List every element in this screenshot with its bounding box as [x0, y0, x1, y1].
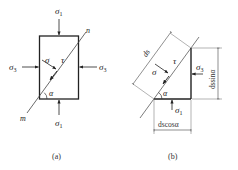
inclined-plane-line: [140, 37, 199, 118]
sigma3-left-label: σ3: [9, 62, 16, 73]
sigma1-bottom-label: σ1: [55, 118, 62, 129]
sigma1-label: σ1: [175, 105, 182, 116]
sigma-normal-arrow: [155, 64, 168, 73]
alpha-arc: [159, 93, 162, 100]
stress-element-rect: [40, 36, 79, 99]
sigma3-label: σ3: [196, 62, 203, 73]
alpha-arc: [44, 93, 47, 99]
vertical-dimension-label: dssinα: [208, 70, 217, 89]
tau-label: τ: [61, 55, 65, 65]
ds-extension-top: [170, 33, 191, 48]
tau-arrow: [50, 71, 57, 80]
sigma3-right-label: σ3: [99, 62, 106, 73]
horizontal-dimension-label: dscosα: [158, 120, 179, 129]
alpha-label: α: [163, 89, 168, 98]
sigma-normal-label: σ: [45, 55, 50, 65]
caption-b: (b): [168, 152, 178, 161]
ds-extension-bottom: [133, 84, 154, 99]
sigma1-top-label: σ1: [55, 6, 62, 17]
caption-a: (a): [52, 152, 61, 161]
tau-label: τ: [173, 56, 177, 66]
panel-a: σ1 σ1 σ3 σ3 σ τ α n m (a): [9, 6, 106, 161]
ds-label: ds: [141, 48, 152, 59]
alpha-label: α: [49, 89, 54, 98]
plane-label-n: n: [86, 26, 90, 35]
inclined-plane-mn: [27, 32, 86, 113]
plane-label-m: m: [20, 114, 26, 123]
panel-b: ds σ τ α σ3 σ1 dssinα dscosα (b): [133, 32, 222, 161]
stress-element-diagram: σ1 σ1 σ3 σ3 σ τ α n m (a) ds σ τ α σ3: [0, 0, 238, 170]
sigma-normal-label: σ: [152, 67, 157, 77]
